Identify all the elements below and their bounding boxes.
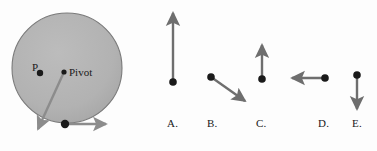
choice-b-label[interactable]: B.: [207, 118, 218, 129]
rim-point-dot: [61, 120, 69, 128]
rotating-disk: [12, 13, 122, 123]
choice-d-label[interactable]: D.: [318, 118, 329, 129]
choice-b-dot: [207, 73, 215, 81]
choice-a-dot: [169, 78, 177, 86]
choice-e-dot: [353, 71, 361, 79]
choice-e-label[interactable]: E.: [352, 118, 362, 129]
choice-d-dot: [321, 74, 329, 82]
choice-c-dot: [258, 75, 266, 83]
choice-c-label[interactable]: C.: [256, 118, 267, 129]
pivot-point-label: Pivot: [69, 67, 92, 78]
point-p-label: P: [32, 62, 38, 73]
choice-a-label[interactable]: A.: [167, 118, 178, 129]
pivot-point-dot: [61, 69, 66, 74]
